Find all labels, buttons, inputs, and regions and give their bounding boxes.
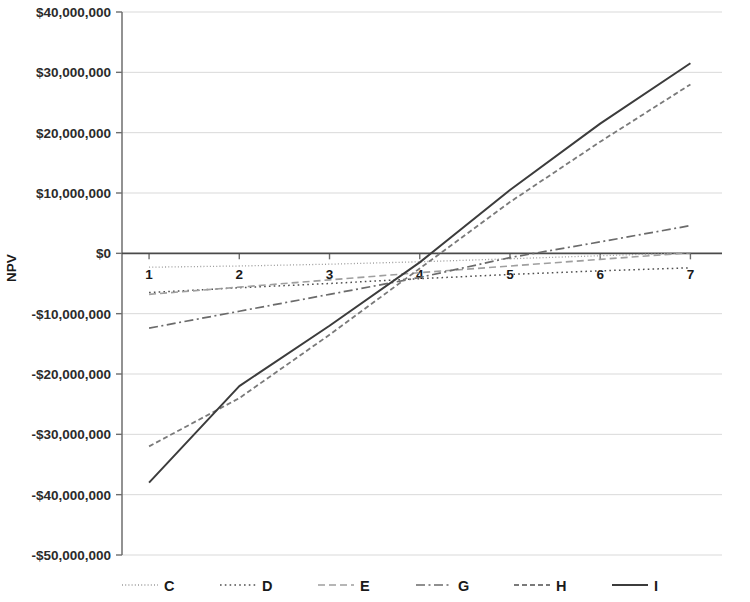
y-tick-label: $30,000,000: [36, 65, 111, 80]
npv-line-chart: $40,000,000$30,000,000$20,000,000$10,000…: [0, 0, 750, 602]
x-tick-label: 6: [596, 267, 604, 282]
legend-label-e[interactable]: E: [360, 578, 370, 594]
y-tick-label: $40,000,000: [36, 5, 111, 20]
legend-label-h[interactable]: H: [556, 578, 566, 594]
legend-label-c[interactable]: C: [164, 578, 175, 594]
y-tick-label: -$40,000,000: [31, 488, 111, 503]
legend-label-i[interactable]: I: [654, 578, 658, 594]
y-tick-label: -$20,000,000: [31, 367, 111, 382]
x-tick-label: 2: [236, 267, 244, 282]
y-axis-title: NPV: [4, 254, 19, 282]
y-tick-label: $10,000,000: [36, 186, 111, 201]
y-tick-label: -$30,000,000: [31, 427, 111, 442]
x-tick-label: 1: [145, 267, 153, 282]
x-tick-label: 7: [687, 267, 695, 282]
chart-background: [0, 0, 750, 602]
legend-label-g[interactable]: G: [458, 578, 469, 594]
y-tick-label: $0: [96, 246, 111, 261]
y-tick-label: -$50,000,000: [31, 548, 111, 563]
y-tick-label: -$10,000,000: [31, 307, 111, 322]
chart-canvas: $40,000,000$30,000,000$20,000,000$10,000…: [0, 0, 750, 602]
y-tick-label: $20,000,000: [36, 126, 111, 141]
legend-label-d[interactable]: D: [262, 578, 272, 594]
